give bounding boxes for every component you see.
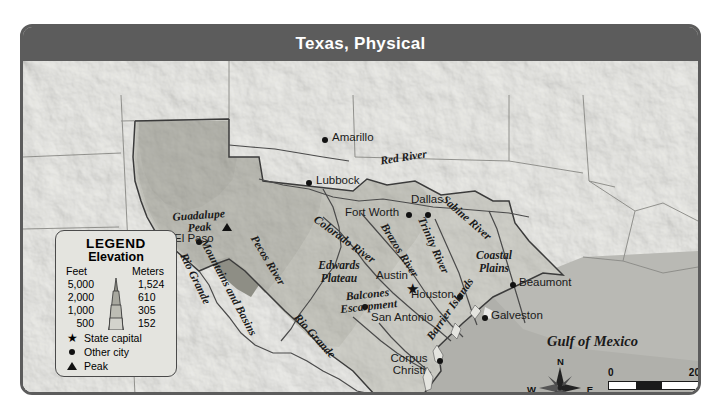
scale-km-zero: 0 — [608, 393, 614, 395]
legend-feet-1: 2,000 — [68, 291, 94, 303]
city-marker-el-paso — [196, 239, 202, 245]
city-marker-san-antonio — [362, 304, 368, 310]
city-marker-corpus-christi — [437, 358, 443, 364]
compass-label-east: E — [587, 384, 593, 395]
city-marker-fort-worth — [406, 212, 412, 218]
legend-key-peak: Peak — [62, 360, 170, 372]
legend-feet-3: 500 — [76, 317, 94, 329]
legend-meters-3: 152 — [138, 317, 156, 329]
legend-subtitle: Elevation — [62, 250, 170, 264]
city-marker-houston — [457, 294, 463, 300]
scale-km-max: 200 km — [648, 393, 682, 395]
compass-label-west: W — [527, 384, 536, 395]
elevation-triangle-icon — [97, 278, 135, 330]
scale-bar: 0 200 mi 0 200 km — [608, 367, 701, 395]
star-icon: ★ — [66, 332, 78, 344]
elevation-ramp: 5,000 1,524 2,000 610 1,000 305 500 152 — [62, 278, 170, 330]
compass-rose: N S W E — [527, 357, 593, 395]
city-marker-beaumont — [510, 282, 516, 288]
legend-feet-2: 1,000 — [68, 304, 94, 316]
scale-miles-max: 200 mi — [689, 367, 701, 378]
city-marker-galveston — [482, 315, 488, 321]
legend-feet-0: 5,000 — [68, 278, 94, 290]
legend-meters-2: 305 — [138, 304, 156, 316]
page-title: Texas, Physical — [296, 34, 426, 54]
legend-box: LEGEND Elevation Feet Meters 5,000 1,524… — [55, 230, 177, 377]
compass-label-north: N — [557, 356, 564, 367]
legend-key-state-capital: ★ State capital — [62, 332, 170, 344]
city-marker-amarillo — [322, 137, 328, 143]
legend-meters-1: 610 — [138, 291, 156, 303]
map-title-bar: Texas, Physical — [23, 27, 698, 61]
screenshot-root: Texas, Physical — [0, 0, 721, 415]
scale-miles-zero: 0 — [608, 367, 614, 378]
legend-key-label-peak: Peak — [84, 360, 108, 372]
legend-key-other-city: Other city — [62, 346, 170, 358]
dot-icon — [66, 349, 78, 355]
peak-marker-guadalupe-peak — [222, 223, 232, 231]
map-card: Texas, Physical — [20, 24, 701, 395]
city-marker-austin-capital: ★ — [406, 281, 419, 296]
legend-header-meters: Meters — [132, 265, 164, 277]
scale-bar-graphic — [608, 381, 701, 390]
legend-key-label-other-city: Other city — [84, 346, 129, 358]
triangle-icon — [66, 362, 78, 370]
legend-meters-0: 1,524 — [138, 278, 164, 290]
legend-header-feet: Feet — [66, 265, 87, 277]
legend-column-headers: Feet Meters — [62, 264, 170, 277]
city-marker-dallas — [425, 212, 431, 218]
legend-key-label-state-capital: State capital — [84, 332, 142, 344]
city-marker-lubbock — [306, 180, 312, 186]
legend-title: LEGEND — [62, 236, 170, 251]
